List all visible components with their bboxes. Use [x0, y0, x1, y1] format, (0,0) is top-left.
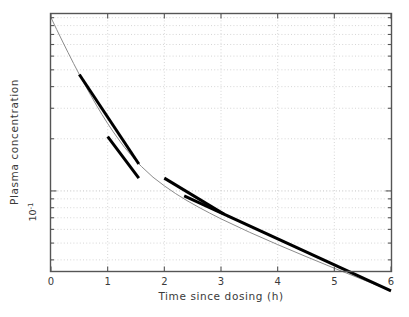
x-tick-label: 5 [331, 276, 337, 287]
x-tick-label: 2 [161, 276, 167, 287]
y-tick-mantissa: 10 [27, 209, 38, 221]
x-tick-label: 4 [274, 276, 280, 287]
figure-container: 0123456 10-1 Time since dosing (h) Plasm… [0, 0, 409, 317]
y-axis-title: Plasma concentration [8, 79, 20, 205]
x-tick-label: 0 [48, 276, 54, 287]
x-axis-title: Time since dosing (h) [157, 290, 283, 302]
x-tick-label: 6 [388, 276, 394, 287]
x-tick-label: 1 [104, 276, 110, 287]
y-tick-exponent: -1 [27, 202, 35, 209]
x-tick-label: 3 [218, 276, 224, 287]
semilog-plot: 0123456 10-1 Time since dosing (h) Plasm… [0, 0, 409, 317]
